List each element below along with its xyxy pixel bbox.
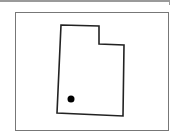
state-outline-utah — [57, 25, 124, 116]
map-svg — [0, 0, 179, 140]
location-marker[interactable] — [68, 96, 75, 103]
